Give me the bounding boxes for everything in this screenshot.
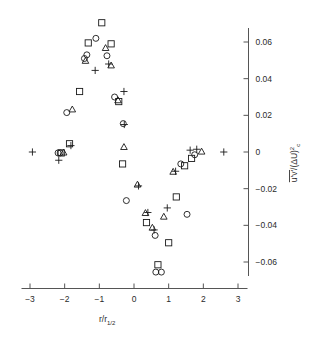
x-axis-title: r/r1/2 (99, 314, 116, 326)
marker-circle (152, 232, 158, 238)
marker-triangle (161, 213, 168, 219)
scatter-plot-figure: −3−2−101230.060.040.020−0.02−0.04−0.06 r… (0, 0, 309, 346)
x-tick-label: 0 (132, 294, 137, 304)
x-tick-label: −1 (94, 294, 104, 304)
marker-square (182, 163, 188, 169)
marker-square (155, 262, 161, 268)
marker-square (173, 194, 179, 200)
marker-circle (104, 53, 110, 59)
marker-circle (64, 110, 70, 116)
marker-square (85, 40, 91, 46)
y-tick-label: 0.04 (256, 74, 273, 84)
marker-circle (178, 161, 184, 167)
marker-circle (184, 211, 190, 217)
series-square (58, 20, 195, 268)
x-tick-label: −2 (60, 294, 70, 304)
series-circle (55, 35, 198, 275)
marker-circle (120, 121, 126, 127)
series-triangle (60, 45, 205, 231)
marker-square (188, 155, 194, 161)
data-markers (29, 20, 228, 275)
y-tick-label: −0.02 (256, 184, 278, 194)
plot-canvas: −3−2−101230.060.040.020−0.02−0.04−0.06 r… (0, 0, 309, 346)
y-tick-label: −0.04 (256, 220, 278, 230)
marker-square (143, 219, 149, 225)
marker-triangle (149, 224, 156, 230)
x-tick-label: 3 (236, 294, 241, 304)
axes: −3−2−101230.060.040.020−0.02−0.04−0.06 (22, 28, 278, 304)
marker-square (99, 20, 105, 26)
y-tick-label: 0.06 (256, 37, 273, 47)
marker-square (119, 161, 125, 167)
marker-circle (93, 35, 99, 41)
x-tick-label: 2 (201, 294, 206, 304)
marker-triangle (121, 144, 128, 150)
marker-square (108, 41, 114, 47)
x-tick-label: 1 (166, 294, 171, 304)
x-tick-label: −3 (25, 294, 35, 304)
y-tick-label: 0 (256, 147, 261, 157)
svg-text:u'v'/(ΔU)2c: u'v'/(ΔU)2c (289, 144, 301, 182)
marker-square (166, 240, 172, 246)
marker-circle (123, 198, 129, 204)
y-tick-label: 0.02 (256, 110, 273, 120)
marker-square (76, 88, 82, 94)
series-plus (29, 60, 228, 233)
y-tick-label: −0.06 (256, 257, 278, 267)
marker-triangle (69, 106, 76, 112)
y-axis-title: u'v'/(ΔU)2c (289, 144, 301, 182)
